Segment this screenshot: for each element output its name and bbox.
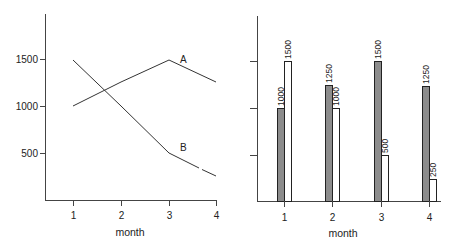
bar-label-a-2: 1250	[324, 64, 334, 83]
chart-canvas: 1500 1000 500 1 2 3 4 month A B 1000 150…	[0, 0, 452, 251]
bar-label-a-4: 1250	[421, 65, 431, 84]
x-axis-title: month	[115, 226, 144, 238]
series-b-label: B	[180, 142, 187, 153]
bar-b-month-1	[285, 62, 292, 202]
bar-b-month-2	[333, 109, 340, 202]
x-tick-label-3: 3	[379, 212, 385, 223]
series-a-label: A	[180, 54, 187, 65]
series-a-line	[73, 60, 216, 106]
bar-a-month-3	[375, 62, 382, 202]
x-tick-label-2: 2	[330, 212, 336, 223]
bar-label-b-3: 500	[380, 139, 390, 153]
bar-label-a-1: 1000	[276, 87, 286, 106]
x-tick-label-1: 1	[71, 210, 77, 221]
x-axis-title: month	[328, 227, 357, 239]
series-b-line-tail	[202, 170, 216, 177]
bar-a-month-4	[423, 87, 430, 202]
bar-label-b-1: 1500	[283, 40, 293, 59]
bar-chart: 1000 1500 1250 1000 1500 500 1250 250 1 …	[250, 16, 441, 239]
bar-label-b-4: 250	[428, 163, 438, 177]
bar-b-month-3	[382, 156, 389, 202]
y-tick-label-500: 500	[21, 148, 38, 159]
bar-b-month-4	[430, 180, 437, 202]
y-tick-label-1000: 1000	[16, 101, 39, 112]
x-tick-label-1: 1	[282, 212, 288, 223]
line-chart: 1500 1000 500 1 2 3 4 month A B	[16, 14, 220, 238]
x-tick-label-3: 3	[167, 210, 173, 221]
bar-label-b-2: 1000	[331, 87, 341, 106]
bar-a-month-1	[278, 109, 285, 202]
x-tick-label-4: 4	[427, 212, 433, 223]
x-tick-label-2: 2	[119, 210, 125, 221]
x-tick-label-4: 4	[214, 210, 220, 221]
y-tick-label-1500: 1500	[16, 54, 39, 65]
bar-label-a-3: 1500	[373, 40, 383, 59]
